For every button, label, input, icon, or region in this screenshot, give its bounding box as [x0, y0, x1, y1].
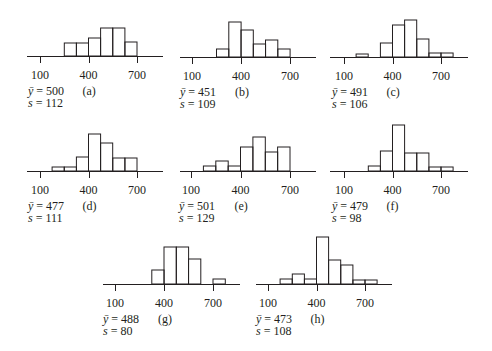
histogram-bar	[64, 167, 76, 171]
panel-letter: (h)	[311, 313, 325, 325]
histogram-bar	[125, 158, 137, 171]
tick-label: 700	[432, 184, 450, 196]
tick-label: 400	[232, 70, 250, 82]
histogram-bar	[405, 153, 417, 171]
histogram-bar	[64, 43, 76, 56]
histogram-bar	[176, 247, 188, 284]
sd-label: s = 111	[28, 212, 63, 224]
sd-label: s = 98	[332, 212, 361, 224]
histogram-panel-e	[180, 137, 316, 178]
histogram-bar	[241, 147, 253, 171]
histogram-bar	[368, 166, 380, 171]
histogram-bar	[216, 161, 228, 171]
tick-label: 700	[204, 297, 222, 309]
sd-label: s = 106	[332, 98, 367, 110]
histogram-bar	[113, 158, 125, 171]
panel-letter: (c)	[387, 86, 400, 98]
histogram-bar	[304, 279, 316, 284]
histogram-bar	[265, 152, 277, 171]
tick-label: 700	[128, 184, 146, 196]
histogram-bar	[353, 280, 365, 284]
sd-label: s = 108	[256, 325, 291, 337]
tick-label: 400	[232, 184, 250, 196]
histogram-panel-a	[27, 28, 163, 63]
histogram-bar	[441, 167, 453, 171]
histogram-bar	[341, 265, 353, 284]
histogram-panel-c	[330, 20, 468, 64]
histogram-bar	[189, 259, 201, 284]
histogram-panel-g	[103, 247, 240, 291]
histogram-bar	[152, 270, 164, 284]
panel-letter: (g)	[158, 313, 172, 325]
histogram-bar	[164, 247, 176, 284]
histogram-bar	[76, 157, 88, 171]
tick-label: 100	[31, 69, 49, 81]
histogram-bar	[203, 166, 215, 171]
tick-label: 400	[80, 69, 98, 81]
tick-label: 100	[106, 297, 124, 309]
tick-label: 400	[155, 297, 173, 309]
histogram-bar	[417, 153, 429, 171]
sd-label: s = 112	[28, 97, 63, 109]
histogram-bar	[329, 260, 341, 284]
histogram-bar	[113, 28, 125, 56]
histogram-bar	[89, 38, 101, 56]
histogram-bar	[441, 53, 453, 57]
histogram-bar	[266, 40, 278, 57]
histogram-bar	[228, 166, 240, 171]
panel-letter: (a)	[83, 85, 96, 97]
panel-letter: (f)	[387, 200, 399, 212]
tick-label: 100	[183, 70, 201, 82]
sd-label: s = 109	[180, 98, 215, 110]
histogram-bar	[317, 237, 329, 284]
histogram-bar	[101, 28, 113, 56]
panel-letter: (d)	[83, 200, 97, 212]
tick-label: 700	[281, 184, 299, 196]
panel-letter: (e)	[235, 200, 248, 212]
sd-label: s = 80	[103, 325, 132, 337]
histogram-bar	[101, 143, 113, 171]
histogram-bar	[380, 43, 392, 57]
histogram-bar	[241, 30, 253, 57]
histogram-bar	[417, 39, 429, 57]
histogram-bar	[213, 279, 225, 284]
histogram-bar	[229, 22, 241, 57]
histogram-panel-h	[256, 237, 392, 291]
tick-label: 700	[356, 297, 374, 309]
tick-label: 100	[335, 184, 353, 196]
histogram-bar	[365, 280, 377, 284]
histogram-bar	[125, 42, 137, 56]
tick-label: 400	[80, 184, 98, 196]
histogram-bar	[380, 151, 392, 171]
histogram-bar	[356, 54, 368, 57]
histogram-bar	[405, 20, 417, 57]
histogram-bar	[292, 274, 304, 284]
tick-label: 700	[432, 70, 450, 82]
histogram-bar	[393, 25, 405, 57]
histogram-bar	[52, 167, 64, 171]
histogram-bar	[393, 125, 405, 171]
sd-label: s = 129	[179, 212, 214, 224]
tick-label: 400	[384, 184, 402, 196]
histogram-panel-d	[27, 134, 163, 178]
histogram-bar	[280, 279, 292, 284]
histograms-svg	[0, 0, 492, 351]
histogram-bar	[278, 49, 290, 57]
tick-label: 100	[182, 184, 200, 196]
tick-label: 700	[281, 70, 299, 82]
tick-label: 400	[308, 297, 326, 309]
histogram-bar	[76, 43, 88, 56]
histogram-panel-f	[330, 125, 468, 178]
histogram-bar	[429, 53, 441, 57]
tick-label: 700	[128, 69, 146, 81]
histogram-bar	[278, 147, 290, 171]
panel-letter: (b)	[235, 86, 249, 98]
histogram-figure: 100400700ȳ = 500s = 112(a)100400700ȳ = 4…	[0, 0, 492, 351]
tick-label: 100	[31, 184, 49, 196]
tick-label: 100	[259, 297, 277, 309]
tick-label: 100	[335, 70, 353, 82]
histogram-bar	[217, 49, 229, 57]
histogram-bar	[253, 44, 265, 57]
tick-label: 400	[384, 70, 402, 82]
histogram-bar	[253, 137, 265, 171]
